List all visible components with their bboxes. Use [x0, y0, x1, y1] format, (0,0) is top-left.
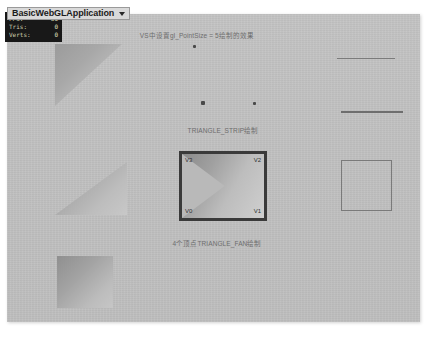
line-primitive-thick	[341, 111, 403, 113]
stats-label: Verts:	[9, 31, 31, 39]
vertex-label-v1: V1	[254, 208, 261, 215]
webgl-canvas[interactable]: VS中设置gl_PointSize = 5绘制的效果 TRIANGLE_STRI…	[7, 14, 420, 322]
stats-value: 0	[54, 23, 58, 31]
point-primitive	[193, 45, 196, 48]
point-primitive	[253, 102, 256, 105]
vertex-label-v3: V3	[185, 157, 192, 164]
square-outline-primitive	[341, 160, 392, 211]
vertex-label-v0: V0	[185, 208, 192, 215]
triangle-top-left-gradient	[55, 44, 122, 106]
stats-label: Tris:	[9, 23, 27, 31]
caption-point-size: VS中设置gl_PointSize = 5绘制的效果	[97, 32, 297, 40]
vertex-label-v2: V2	[254, 157, 261, 164]
stats-row: Verts: 0	[9, 31, 58, 39]
triangle-strip-shape	[182, 154, 264, 218]
point-primitive	[201, 101, 205, 105]
triangle-bottom-right-gradient	[55, 162, 127, 215]
chevron-down-icon[interactable]	[119, 12, 125, 16]
app-selector[interactable]: BasicWebGLApplication	[7, 7, 130, 20]
stats-row: Tris: 0	[9, 23, 58, 31]
stats-value: 0	[54, 31, 58, 39]
line-primitive-thin	[337, 58, 395, 59]
square-gradient-fill	[57, 256, 113, 308]
app-title-label: BasicWebGLApplication	[12, 9, 114, 18]
triangle-strip-highlight-box[interactable]: V3 V2 V0 V1	[179, 151, 267, 221]
caption-triangle-fan: 4个顶点TRIANGLE_FAN绘制	[117, 240, 317, 248]
caption-triangle-strip: TRIANGLE_STRIP绘制	[123, 127, 323, 135]
